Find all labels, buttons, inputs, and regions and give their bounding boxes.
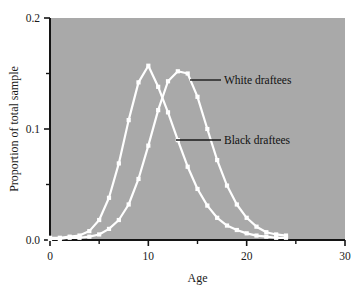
data-point-marker [245, 216, 249, 220]
data-point-marker [235, 228, 239, 232]
data-point-marker [146, 64, 150, 68]
data-point-marker [127, 118, 131, 122]
chart-figure: 0.00.10.20102030White drafteesBlack draf… [0, 0, 361, 288]
x-tick-label: 10 [143, 250, 155, 262]
data-point-marker [107, 196, 111, 200]
data-point-marker [225, 184, 229, 188]
data-point-marker [235, 202, 239, 206]
data-point-marker [215, 158, 219, 162]
data-point-marker [127, 202, 131, 206]
chart-canvas: 0.00.10.20102030White drafteesBlack draf… [0, 0, 361, 288]
data-point-marker [205, 127, 209, 131]
x-tick-label: 30 [339, 250, 351, 262]
data-point-marker [136, 177, 140, 181]
data-point-marker [156, 85, 160, 89]
annotation-label-white-draftees: White draftees [224, 74, 292, 86]
data-point-marker [264, 235, 268, 239]
x-tick-label: 20 [241, 250, 253, 262]
data-point-marker [77, 236, 81, 240]
data-point-marker [205, 203, 209, 207]
data-point-marker [107, 227, 111, 231]
data-point-marker [87, 229, 91, 233]
y-axis-title: Proportion of total sample [7, 66, 21, 192]
data-point-marker [254, 225, 258, 229]
data-point-marker [284, 233, 288, 237]
y-tick-label: 0.0 [26, 234, 41, 246]
data-point-marker [136, 80, 140, 84]
plot-area-background [50, 18, 345, 240]
data-point-marker [186, 71, 190, 75]
y-tick-label: 0.2 [26, 12, 41, 24]
data-point-marker [186, 165, 190, 169]
data-point-marker [264, 230, 268, 234]
y-tick-label: 0.1 [26, 123, 41, 135]
x-axis-title: Age [188, 271, 208, 285]
data-point-marker [245, 231, 249, 235]
data-point-marker [117, 218, 121, 222]
data-point-marker [225, 223, 229, 227]
data-point-marker [97, 232, 101, 236]
data-point-marker [68, 236, 72, 240]
data-point-marker [156, 108, 160, 112]
data-point-marker [87, 235, 91, 239]
data-point-marker [195, 187, 199, 191]
data-point-marker [215, 216, 219, 220]
data-point-marker [48, 237, 52, 241]
data-point-marker [58, 237, 62, 241]
x-tick-label: 0 [47, 250, 53, 262]
data-point-marker [274, 232, 278, 236]
data-point-marker [117, 161, 121, 165]
data-point-marker [254, 233, 258, 237]
data-point-marker [195, 95, 199, 99]
data-point-marker [97, 218, 101, 222]
annotation-label-black-draftees: Black draftees [224, 134, 291, 146]
data-point-marker [166, 110, 170, 114]
data-point-marker [166, 79, 170, 83]
data-point-marker [176, 69, 180, 73]
data-point-marker [146, 144, 150, 148]
